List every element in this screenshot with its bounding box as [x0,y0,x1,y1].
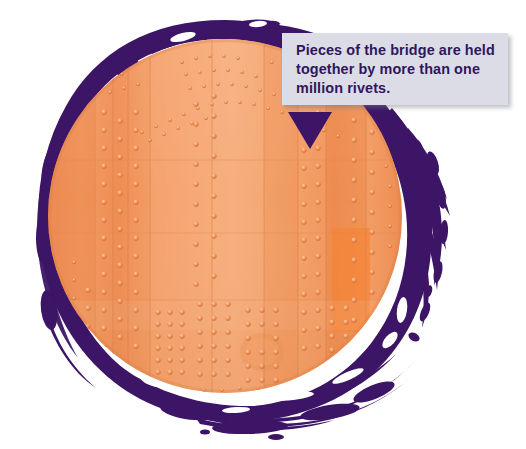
fact-callout-text: Pieces of the bridge are held together b… [296,41,498,98]
fact-callout: Pieces of the bridge are held together b… [282,33,508,105]
poster-canvas: Pieces of the bridge are held together b… [0,0,526,449]
